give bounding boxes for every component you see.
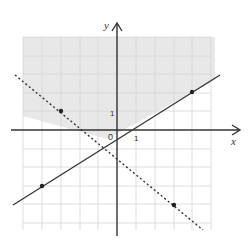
dashed-line-point (172, 203, 176, 207)
y-tick-label: 1 (110, 109, 115, 118)
solid-line-point (190, 90, 194, 94)
origin-label: 0 (108, 132, 113, 142)
shaded-region (23, 37, 215, 139)
dashed-line-point (59, 109, 63, 113)
coordinate-graph: x y 0 1 1 (0, 0, 251, 246)
x-axis-label: x (230, 135, 236, 147)
x-tick-label: 1 (134, 134, 139, 143)
solid-line-point (40, 184, 44, 188)
y-axis-label: y (103, 19, 109, 31)
